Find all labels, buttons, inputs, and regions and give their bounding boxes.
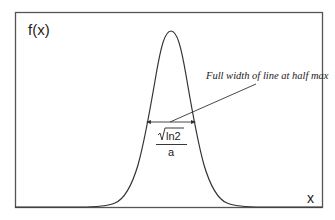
annotation-text: Full width of line at half max bbox=[205, 70, 329, 81]
y-axis-label: f(x) bbox=[28, 21, 50, 38]
gaussian-curve bbox=[15, 31, 322, 207]
x-axis-label: x bbox=[307, 190, 314, 206]
annotation-leader-line bbox=[170, 84, 256, 122]
fwhm-denominator: a bbox=[168, 146, 175, 158]
gaussian-diagram: f(x) x Full width of line at half max ln… bbox=[0, 0, 335, 220]
fwhm-numerator: ln2 bbox=[166, 130, 181, 142]
plot-frame bbox=[16, 13, 323, 208]
